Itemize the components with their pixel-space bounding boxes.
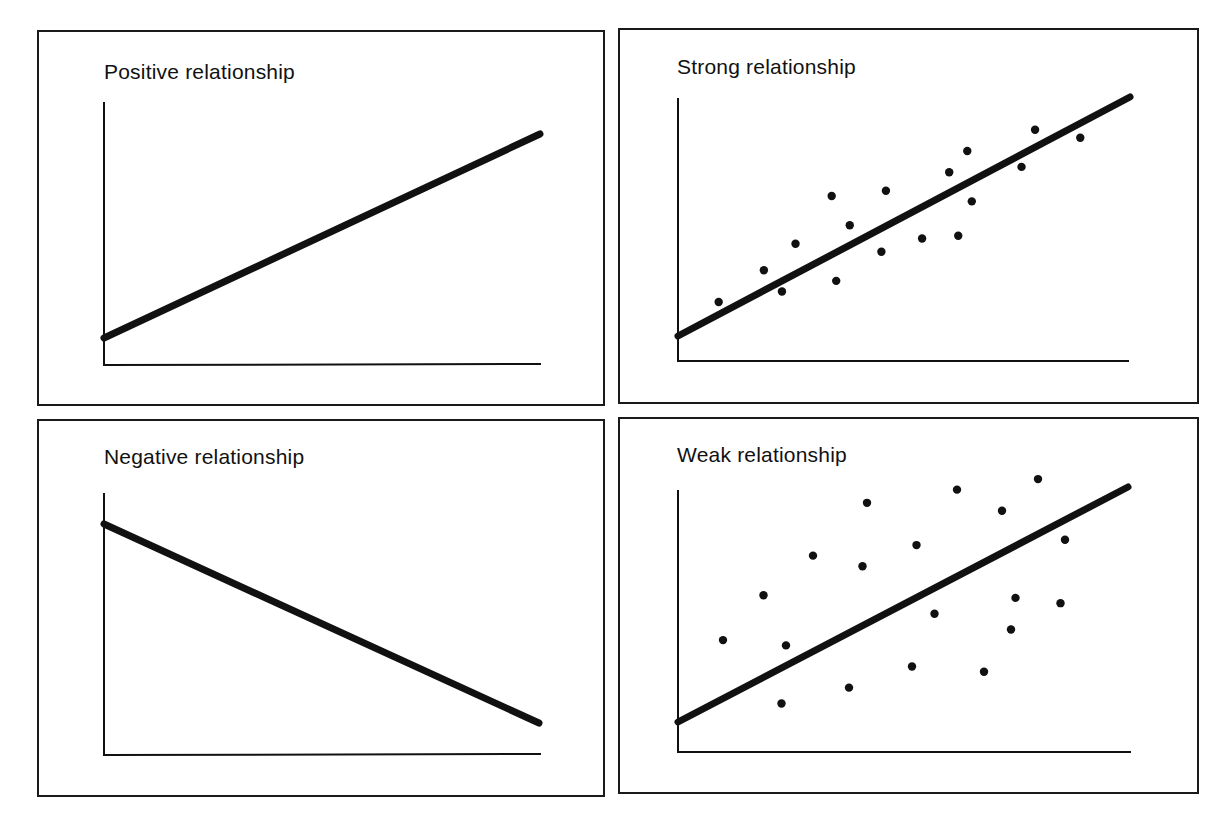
data-point (1007, 625, 1015, 633)
data-point (918, 234, 926, 242)
data-point (809, 551, 817, 559)
data-point (778, 287, 786, 295)
charts-canvas (0, 0, 1221, 822)
trend-line (104, 524, 539, 723)
data-point (882, 187, 890, 195)
data-point (782, 641, 790, 649)
data-point (953, 485, 961, 493)
data-point (1011, 594, 1019, 602)
trend-line (678, 97, 1130, 336)
chart-weak (677, 475, 1131, 753)
data-point (930, 610, 938, 618)
data-point (1076, 134, 1084, 142)
data-point (858, 562, 866, 570)
data-point (791, 240, 799, 248)
data-point (998, 507, 1006, 515)
chart-strong (677, 97, 1130, 362)
data-point (845, 683, 853, 691)
x-axis (103, 754, 541, 755)
data-point (863, 499, 871, 507)
data-point (908, 662, 916, 670)
chart-positive (103, 102, 541, 366)
data-point (912, 541, 920, 549)
data-point (1034, 475, 1042, 483)
data-point (980, 668, 988, 676)
data-point (1056, 599, 1064, 607)
data-point (777, 699, 785, 707)
data-point (963, 147, 971, 155)
trend-line (104, 134, 540, 338)
data-point (846, 221, 854, 229)
data-point (1017, 163, 1025, 171)
data-point (954, 232, 962, 240)
data-point (759, 591, 767, 599)
data-point (1061, 536, 1069, 544)
data-point (760, 266, 768, 274)
data-point (719, 636, 727, 644)
chart-negative (103, 493, 541, 756)
data-point (945, 168, 953, 176)
data-point (827, 192, 835, 200)
data-point (1031, 126, 1039, 134)
data-point (877, 248, 885, 256)
data-point (832, 277, 840, 285)
x-axis (103, 364, 541, 365)
data-point (714, 298, 722, 306)
data-point (968, 197, 976, 205)
